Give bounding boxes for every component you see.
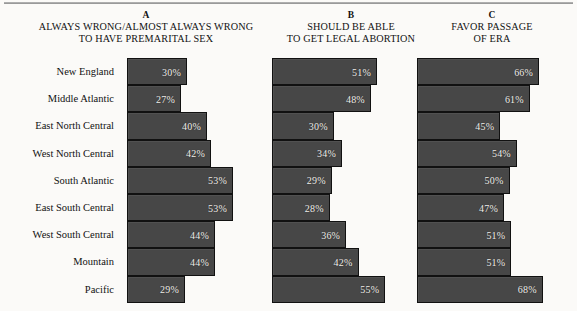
bar-value-label: 42%: [186, 148, 205, 159]
column-header-b: B SHOULD BE ABLE TO GET LEGAL ABORTION: [266, 10, 436, 45]
bar-value-label: 47%: [479, 202, 498, 213]
bar-value-label: 29%: [307, 175, 326, 186]
bar-b[interactable]: 28%: [272, 194, 330, 221]
bar-value-label: 53%: [208, 175, 227, 186]
region-label: East South Central: [0, 194, 121, 221]
bar-c[interactable]: 54%: [417, 140, 517, 167]
bar-value-label: 44%: [190, 256, 209, 267]
bar-value-label: 55%: [360, 284, 379, 295]
bar-a[interactable]: 53%: [127, 167, 233, 194]
column-letter-c: C: [412, 10, 572, 21]
bar-value-label: 68%: [518, 284, 537, 295]
bar-c[interactable]: 66%: [417, 58, 539, 85]
bar-c[interactable]: 51%: [417, 221, 511, 248]
bar-c[interactable]: 47%: [417, 194, 504, 221]
bar-value-label: 44%: [190, 229, 209, 240]
column-header-c: C FAVOR PASSAGE OF ERA: [412, 10, 572, 45]
bar-c[interactable]: 61%: [417, 85, 530, 112]
region-label: Pacific: [0, 276, 121, 303]
region-label: Mountain: [0, 248, 121, 275]
bar-b[interactable]: 55%: [272, 276, 385, 303]
bar-b[interactable]: 48%: [272, 85, 371, 112]
bar-c[interactable]: 45%: [417, 112, 500, 139]
bar-value-label: 42%: [334, 256, 353, 267]
bar-b[interactable]: 51%: [272, 58, 377, 85]
bar-c[interactable]: 50%: [417, 167, 510, 194]
top-divider-rule: [4, 2, 573, 4]
bar-b[interactable]: 34%: [272, 140, 342, 167]
bar-value-label: 53%: [208, 202, 227, 213]
bar-value-label: 27%: [156, 93, 175, 104]
column-letter-a: A: [6, 10, 286, 21]
bar-a[interactable]: 44%: [127, 248, 215, 275]
bar-a[interactable]: 42%: [127, 140, 211, 167]
bar-a[interactable]: 44%: [127, 221, 215, 248]
bar-value-label: 66%: [514, 66, 533, 77]
bar-a[interactable]: 29%: [127, 276, 185, 303]
bar-value-label: 29%: [160, 284, 179, 295]
bar-c[interactable]: 68%: [417, 276, 543, 303]
bar-value-label: 61%: [505, 93, 524, 104]
column-caption-b: SHOULD BE ABLE TO GET LEGAL ABORTION: [266, 21, 436, 45]
bar-value-label: 51%: [352, 66, 371, 77]
bar-value-label: 30%: [162, 66, 181, 77]
column-caption-c: FAVOR PASSAGE OF ERA: [412, 21, 572, 45]
column-letter-b: B: [266, 10, 436, 21]
column-caption-a: ALWAYS WRONG/ALMOST ALWAYS WRONG TO HAVE…: [6, 21, 286, 45]
bar-c[interactable]: 51%: [417, 248, 511, 275]
region-label: South Atlantic: [0, 167, 121, 194]
bar-value-label: 45%: [475, 120, 494, 131]
bar-value-label: 50%: [485, 175, 504, 186]
bar-value-label: 51%: [486, 256, 505, 267]
bar-b[interactable]: 30%: [272, 112, 334, 139]
bar-value-label: 48%: [346, 93, 365, 104]
region-label: West North Central: [0, 140, 121, 167]
bar-a[interactable]: 27%: [127, 85, 181, 112]
bar-b[interactable]: 42%: [272, 248, 359, 275]
bar-value-label: 30%: [309, 120, 328, 131]
column-header-a: A ALWAYS WRONG/ALMOST ALWAYS WRONG TO HA…: [6, 10, 286, 45]
bar-value-label: 40%: [182, 120, 201, 131]
bar-b[interactable]: 29%: [272, 167, 332, 194]
bar-value-label: 36%: [321, 229, 340, 240]
bar-a[interactable]: 40%: [127, 112, 207, 139]
bar-value-label: 51%: [486, 229, 505, 240]
bar-a[interactable]: 53%: [127, 194, 233, 221]
region-label: East North Central: [0, 112, 121, 139]
bar-a[interactable]: 30%: [127, 58, 187, 85]
bar-value-label: 28%: [305, 202, 324, 213]
region-label-axis: New EnglandMiddle AtlanticEast North Cen…: [0, 58, 121, 303]
region-label: Middle Atlantic: [0, 85, 121, 112]
chart-figure: A ALWAYS WRONG/ALMOST ALWAYS WRONG TO HA…: [0, 0, 577, 311]
region-label: New England: [0, 58, 121, 85]
bar-value-label: 34%: [317, 148, 336, 159]
bar-value-label: 54%: [492, 148, 511, 159]
bar-b[interactable]: 36%: [272, 221, 346, 248]
region-label: West South Central: [0, 221, 121, 248]
